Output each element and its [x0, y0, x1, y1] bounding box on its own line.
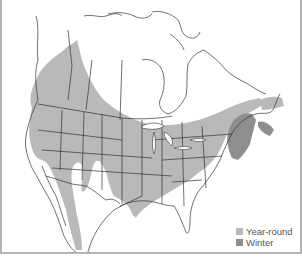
year-round-range-newfoundland — [260, 97, 284, 110]
legend-label-year-round: Year-round — [246, 226, 293, 237]
legend-item-winter: Winter — [236, 237, 293, 248]
legend-label-winter: Winter — [246, 237, 273, 248]
winter-swatch-icon — [236, 239, 243, 246]
winter-range-maritime — [258, 121, 274, 136]
map-frame — [0, 0, 302, 254]
range-map — [2, 0, 300, 252]
year-round-swatch-icon — [236, 228, 243, 235]
legend-item-year-round: Year-round — [236, 226, 293, 237]
map-legend: Year-round Winter — [236, 226, 293, 248]
